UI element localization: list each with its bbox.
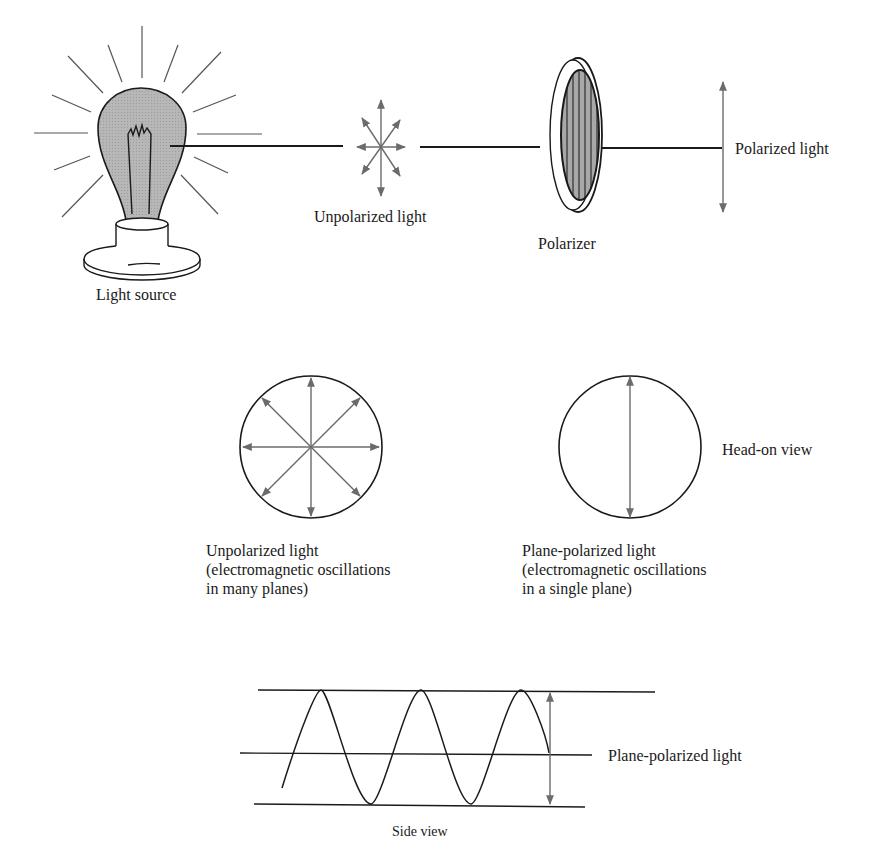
polarizer-filter-icon [550, 58, 602, 212]
plane-polarized-caption-description: (electromagnetic oscillations in a singl… [522, 560, 706, 598]
side-view-wave [240, 690, 655, 807]
polarized-light-label: Polarized light [735, 139, 829, 158]
polarization-diagram [0, 0, 886, 864]
unpolarized-caption: Unpolarized light (electromagnetic oscil… [206, 541, 390, 598]
side-view-label: Side view [392, 822, 448, 841]
plane-polarized-head-on-circle [559, 376, 701, 518]
light-bulb-icon [34, 26, 262, 280]
unpolarized-light-label: Unpolarized light [314, 207, 426, 226]
plane-polarized-caption-title: Plane-polarized light [522, 541, 706, 560]
plane-polarized-caption: Plane-polarized light (electromagnetic o… [522, 541, 706, 598]
light-source-label: Light source [96, 285, 176, 304]
unpolarized-caption-description: (electromagnetic oscillations in many pl… [206, 560, 390, 598]
polarizer-label: Polarizer [538, 234, 596, 253]
light-beam [170, 146, 722, 148]
multi-direction-arrows-icon [357, 100, 405, 196]
head-on-view-label: Head-on view [722, 440, 812, 459]
unpolarized-caption-title: Unpolarized light [206, 541, 390, 560]
side-plane-polarized-label: Plane-polarized light [608, 746, 742, 765]
unpolarized-head-on-circle [240, 376, 382, 518]
